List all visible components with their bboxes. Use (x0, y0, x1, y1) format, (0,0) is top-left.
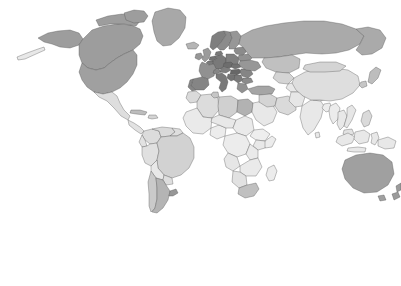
country-sri-lanka (315, 132, 320, 138)
country-bulgaria (242, 78, 253, 84)
map-legend: ASR (world) incidence men 0 10 20 30 (0, 228, 401, 286)
country-indonesia-java (347, 147, 366, 152)
country-iceland (186, 42, 199, 49)
country-india (300, 100, 324, 135)
country-alaska (38, 30, 83, 48)
country-cuba (130, 110, 147, 115)
country-libya (218, 96, 238, 118)
country-south-korea (359, 81, 367, 88)
country-new-zealand (396, 183, 401, 192)
country-niger-chad (211, 115, 236, 128)
country-italy (216, 73, 228, 92)
country-indonesia-sumatra (336, 133, 355, 146)
country-aleutians (17, 47, 45, 60)
world-map-figure: ASR (world) incidence men 0 10 20 30 (0, 0, 401, 286)
country-brazil (157, 133, 194, 178)
country-indonesia-sulawesi (371, 132, 379, 145)
country-indonesia-borneo (354, 130, 370, 144)
country-turkey (248, 86, 275, 95)
country-philippines (361, 110, 372, 127)
country-france (199, 62, 216, 79)
country-kazakhstan (262, 55, 300, 73)
country-sudan (233, 116, 254, 136)
country-serbia (234, 75, 243, 83)
country-mexico (94, 92, 130, 120)
map-panel (0, 0, 401, 228)
country-hispaniola (148, 115, 158, 119)
country-madagascar (266, 165, 277, 181)
country-egypt (237, 99, 253, 116)
country-mongolia (303, 62, 346, 72)
country-greenland (152, 8, 186, 46)
country-greece (237, 83, 248, 93)
country-papua-new-guinea (378, 137, 396, 149)
country-congo-dr (223, 133, 250, 157)
country-uruguay (169, 189, 178, 196)
country-zambia-mozambique (240, 158, 262, 176)
country-new-zealand-south (392, 192, 400, 200)
world-map-svg (0, 0, 401, 228)
country-japan (368, 67, 381, 84)
country-russia (239, 21, 364, 58)
country-tasmania (378, 195, 386, 201)
country-central-america (128, 120, 144, 134)
country-ireland (195, 53, 203, 60)
country-australia (342, 153, 394, 193)
country-central-asia (273, 72, 294, 84)
